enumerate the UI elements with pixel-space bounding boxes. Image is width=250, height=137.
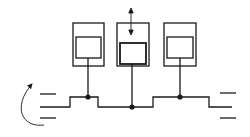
inner-block: [120, 43, 146, 64]
inner-block: [167, 37, 193, 58]
mechanism-diagram: [0, 0, 250, 137]
stepped-bus-line: [40, 97, 232, 107]
vertical-double-arrow-icon: [129, 8, 133, 35]
left-terminal-lines: [40, 94, 56, 118]
right-terminal-lines: [220, 93, 236, 118]
unit-middle: [117, 23, 149, 107]
junction-dot-right: [177, 94, 182, 99]
unit-left: [73, 23, 104, 97]
outer-housing: [117, 23, 149, 66]
unit-right: [164, 23, 196, 97]
junction-dot-left: [85, 94, 90, 99]
junction-dot-middle: [129, 104, 134, 109]
rotation-arrow-icon: [21, 84, 44, 125]
inner-block: [76, 37, 101, 58]
